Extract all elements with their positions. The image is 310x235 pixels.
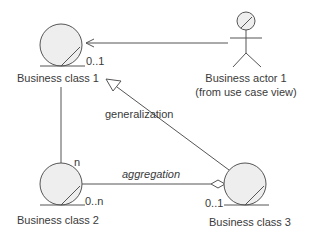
aggregation-relationship[interactable] [82,180,225,188]
business-actor-label: Business actor 1 [205,72,286,85]
business-class-3-icon[interactable] [224,163,269,205]
class3-aggregation-multiplicity: 0..1 [205,197,223,210]
business-actor-icon[interactable] [230,12,262,67]
aggregation-label: aggregation [122,168,180,181]
business-class-1-label: Business class 1 [17,72,99,85]
class2-n-multiplicity: n [74,156,80,169]
class2-aggregation-multiplicity: 0..n [85,195,103,208]
actor-class1-association[interactable] [86,39,228,47]
business-class-3-label: Business class 3 [209,216,291,229]
business-class-2-label: Business class 2 [17,214,99,227]
business-actor-sublabel: (from use case view) [195,86,296,99]
class1-multiplicity: 0..1 [86,55,104,68]
business-class-1-icon[interactable] [40,24,85,66]
business-class-2-icon[interactable] [40,163,85,205]
generalization-label: generalization [105,108,174,121]
